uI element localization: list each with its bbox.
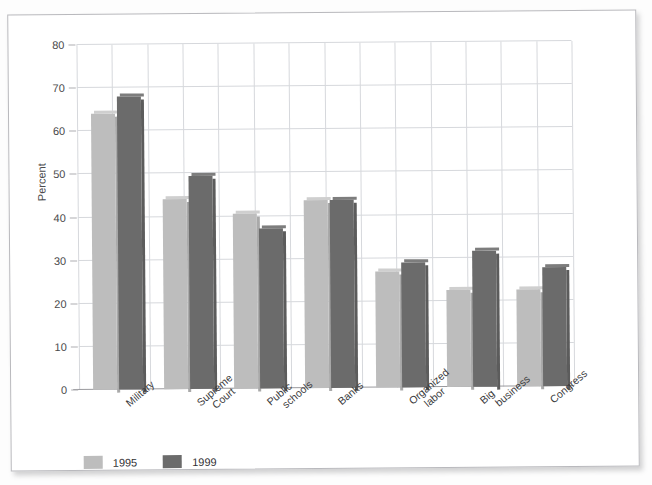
legend-item-1999[interactable]: 1999 [163,455,217,468]
bar-face [162,199,187,389]
bar-1999[interactable] [330,200,355,388]
gridline-vertical [289,43,293,388]
gridline-vertical [218,44,222,389]
bar-1995[interactable] [91,114,117,390]
y-axis-tick-label: 60 [25,125,65,137]
x-axis-category-labels: MilitarySupremeCourtPublicschoolsBanksOr… [8,11,635,16]
bar-group [515,41,560,386]
gridline-vertical [571,41,575,386]
y-axis-tick-label: 30 [26,255,66,267]
bar-1999[interactable] [472,251,497,387]
legend-swatch-icon-1999 [163,455,182,468]
bar-1999[interactable] [543,267,568,386]
bar-face [375,271,400,388]
legend-label-1999: 1999 [192,455,217,467]
bar-face [472,251,497,387]
chart-screenshot: Percent 01020304050607080 MilitarySuprem… [0,0,652,485]
bar-1999[interactable] [117,96,143,389]
bar-1995[interactable] [375,271,400,388]
y-axis-tick-mark [69,174,76,175]
legend: 1995 1999 [84,455,217,469]
y-axis-tick-label: 20 [26,298,66,310]
bar-group [90,44,135,389]
bar-1995[interactable] [446,290,471,387]
bar-group [232,43,277,388]
bar-face [304,200,329,388]
y-axis-ticks: 01020304050607080 [8,11,635,16]
bar-group [161,44,206,389]
bar-1995[interactable] [304,200,329,388]
y-axis-tick-mark [70,260,77,261]
y-axis-tick-label: 70 [25,82,65,94]
y-axis-tick-mark [70,217,77,218]
bar-face [259,229,284,389]
plot-area [76,41,574,390]
y-axis-tick-label: 0 [27,384,67,396]
gridline-vertical [76,45,80,390]
legend-swatch-icon-1995 [84,456,103,469]
bar-1995[interactable] [233,214,258,389]
gridline-vertical [359,43,363,388]
bar-face [543,267,568,386]
y-axis-tick-mark [71,346,78,347]
bar-1999[interactable] [259,229,284,389]
y-axis-tick-mark [70,303,77,304]
y-axis-tick-label: 10 [27,341,67,353]
y-axis-tick-label: 80 [24,39,64,51]
bar-face [188,175,214,389]
legend-label-1995: 1995 [113,456,138,468]
y-axis-tick-label: 40 [26,212,66,224]
bar-group [444,42,489,387]
y-axis-tick-mark [69,131,76,132]
y-axis-tick-mark [71,389,78,390]
y-axis-tick-label: 50 [25,168,65,180]
bar-group [303,43,348,388]
scanned-page-sheet: Percent 01020304050607080 MilitarySuprem… [7,10,640,472]
y-axis-tick-mark [69,88,76,89]
bar-face [91,114,117,390]
legend-item-1995[interactable]: 1995 [84,455,138,468]
bar-1999[interactable] [188,175,214,389]
bar-group [373,42,418,387]
bar-1999[interactable] [401,262,426,387]
bar-face [446,290,471,387]
y-axis-tick-mark [68,44,75,45]
bar-1995[interactable] [162,199,187,389]
bar-face [233,214,258,389]
bar-face [401,262,426,387]
bar-face [330,200,355,388]
bar-face [117,96,143,389]
gridline-vertical [430,42,434,387]
